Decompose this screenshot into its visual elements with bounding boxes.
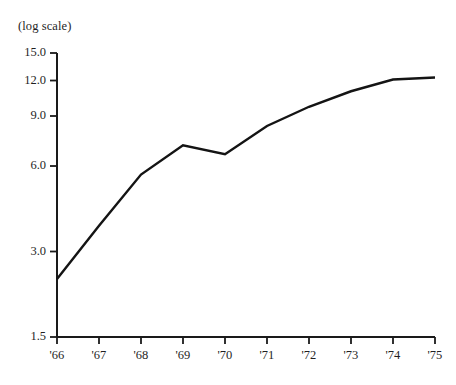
- y-axis-tick-label: 1.5: [2, 329, 46, 344]
- x-axis-ticks: [57, 337, 435, 344]
- x-axis-tick-label: '66: [37, 348, 77, 363]
- data-series-line: [57, 77, 435, 279]
- x-axis-tick-label: '70: [205, 348, 245, 363]
- x-axis-tick-label: '75: [415, 348, 455, 363]
- x-axis-tick-label: '69: [163, 348, 203, 363]
- x-axis-tick-label: '73: [331, 348, 371, 363]
- x-axis-tick-label: '72: [289, 348, 329, 363]
- y-axis-tick-label: 9.0: [2, 108, 46, 123]
- y-axis-tick-label: 3.0: [2, 244, 46, 259]
- y-axis-tick-label: 12.0: [2, 73, 46, 88]
- line-chart: (log scale) 15.012.09.06.03.01.5 '66'67'…: [0, 0, 456, 385]
- x-axis-tick-label: '68: [121, 348, 161, 363]
- y-axis-tick-label: 15.0: [2, 45, 46, 60]
- x-axis-tick-label: '71: [247, 348, 287, 363]
- y-axis-ticks: [50, 53, 57, 337]
- y-axis-tick-label: 6.0: [2, 158, 46, 173]
- x-axis-tick-label: '67: [79, 348, 119, 363]
- x-axis-tick-label: '74: [373, 348, 413, 363]
- chart-plot-area: [0, 0, 456, 385]
- axes: [57, 53, 435, 337]
